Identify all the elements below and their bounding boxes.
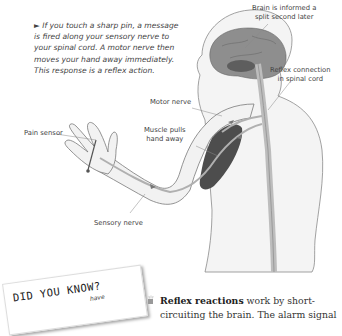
label-brain-line2: split second later: [252, 13, 316, 22]
label-pain-sensor: Pain sensor: [24, 129, 63, 138]
hand-icon: [146, 295, 156, 305]
label-brain: Brain is informed a split second later: [252, 4, 316, 22]
fact-bold: Reflex reactions: [160, 295, 244, 306]
label-reflex-connection: Reflex connection in spinal cord: [270, 66, 331, 84]
label-reflex-line2: in spinal cord: [270, 75, 331, 84]
label-brain-line1: Brain is informed a: [252, 4, 316, 13]
label-reflex-line1: Reflex connection: [270, 66, 331, 75]
did-you-know-title: DID YOU KNOW?: [12, 279, 101, 303]
label-muscle-line2: hand away: [144, 135, 186, 144]
label-muscle-line1: Muscle pulls: [144, 126, 186, 135]
intro-text: If you touch a sharp pin, a message is f…: [34, 21, 178, 75]
did-you-know-text: have: [89, 293, 105, 302]
label-motor-nerve: Motor nerve: [150, 98, 191, 107]
intro-paragraph: ► If you touch a sharp pin, a message is…: [34, 20, 184, 76]
fact-paragraph: Reflex reactions work by short-circuitin…: [160, 294, 342, 322]
hand: [65, 122, 117, 174]
bullet-icon: ►: [34, 21, 40, 30]
label-muscle: Muscle pulls hand away: [144, 126, 186, 144]
label-sensory-nerve: Sensory nerve: [94, 219, 143, 228]
